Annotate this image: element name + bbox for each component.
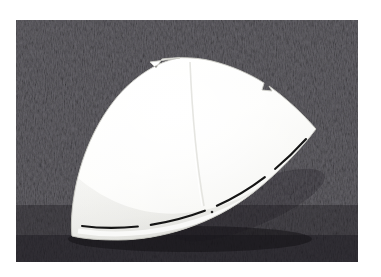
- photo-content: [16, 20, 358, 262]
- photograph-frame: [0, 0, 381, 277]
- photo-grain: [16, 20, 358, 262]
- photograph-image: [0, 0, 381, 277]
